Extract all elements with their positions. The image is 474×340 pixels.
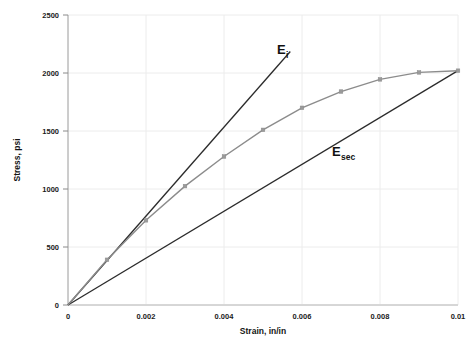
data-point-marker [417,71,421,75]
xtick-label-0: 0 [66,312,70,321]
data-point-marker [183,184,187,188]
ytick-label-1000: 1000 [42,185,59,194]
ytick-label-0: 0 [55,301,59,310]
data-point-marker [105,258,109,262]
Esec-label-base: E [332,144,341,159]
data-point-marker [144,219,148,223]
chart-canvas: 0 500 1000 1500 2000 2500 0 0.002 0.004 … [0,0,474,340]
xtick-label-0006: 0.006 [293,312,312,321]
stress-strain-chart: 0 500 1000 1500 2000 2500 0 0.002 0.004 … [0,0,474,340]
xtick-label-001: 0.01 [451,312,466,321]
Ei-label-subscript: i [286,50,288,60]
chart-background [0,0,474,340]
Ei-label-base: E [277,42,286,57]
data-point-marker [456,69,460,73]
ytick-label-1500: 1500 [42,127,59,136]
xtick-label-0008: 0.008 [371,312,390,321]
data-point-marker [222,155,226,159]
y-axis-title: Stress, psi [12,139,22,182]
data-point-marker [300,106,304,110]
Esec-label-subscript: sec [341,152,355,162]
x-axis-title: Strain, in/in [240,326,286,336]
ytick-label-2000: 2000 [42,69,59,78]
xtick-label-0004: 0.004 [215,312,235,321]
data-point-marker [339,90,343,94]
data-point-marker [378,78,382,82]
xtick-label-0002: 0.002 [137,312,156,321]
ytick-label-500: 500 [46,243,59,252]
ytick-label-2500: 2500 [42,11,59,20]
data-point-marker [261,128,265,132]
